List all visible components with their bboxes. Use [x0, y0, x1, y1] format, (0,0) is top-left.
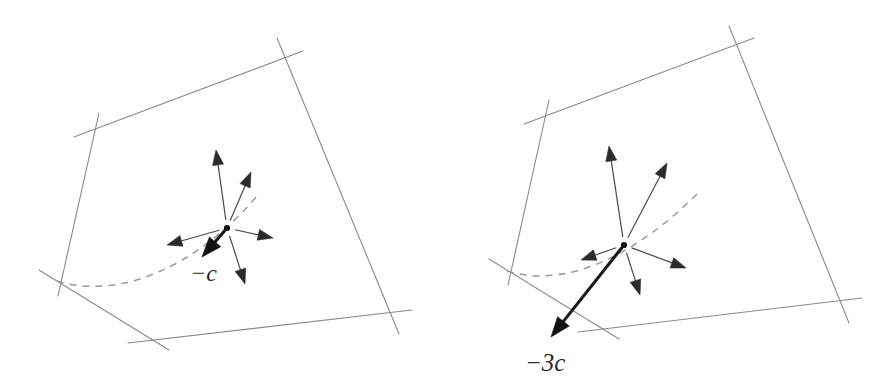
vector-down-head — [630, 279, 640, 295]
patch-right-edge — [277, 38, 399, 334]
patch-left-edge — [58, 113, 99, 296]
patch-left-edge — [508, 100, 549, 285]
dashed-geodesic-curve — [507, 191, 700, 276]
vector-up-shaft — [610, 154, 623, 237]
vector-up-shaft — [217, 158, 226, 220]
patch-bottom-edge — [578, 298, 862, 332]
basepoint-dot — [224, 225, 230, 231]
panel-minus-c — [39, 38, 412, 350]
basepoint-dot — [621, 242, 627, 248]
label-minus-c: −c — [190, 260, 217, 286]
vector-up-right-head — [240, 172, 251, 188]
tangent-vector-diagram: −c −3c — [0, 0, 887, 377]
vector-up-head — [213, 150, 224, 166]
vector-left-head — [167, 236, 183, 247]
patch-bottom-edge — [128, 310, 412, 343]
patch-top-edge — [74, 51, 303, 137]
label-minus-3c: −3c — [525, 349, 565, 376]
vector-right-shaft — [632, 248, 679, 265]
vector-up-right-shaft — [628, 170, 663, 237]
panel-minus-3c — [489, 26, 862, 339]
vector-left-head — [581, 250, 597, 260]
vector-right-head — [257, 229, 273, 240]
vector-right-head — [670, 258, 686, 268]
patch-right-edge — [729, 26, 849, 323]
vector-down-head — [235, 268, 245, 284]
vector-up-head — [606, 146, 617, 162]
figure-root: −c −3c — [0, 0, 887, 377]
dashed-geodesic-curve — [57, 196, 257, 286]
patch-top-edge — [524, 38, 754, 124]
vector-up-right-head — [655, 163, 667, 179]
